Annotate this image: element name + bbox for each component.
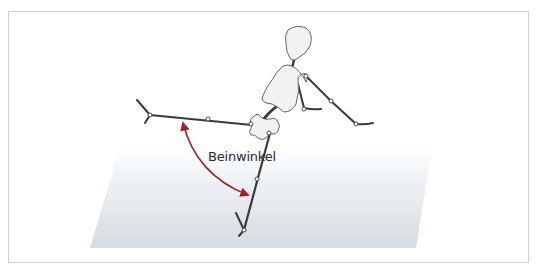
skater-diagram <box>0 0 538 273</box>
right-hand <box>356 123 373 124</box>
right-upper-arm <box>306 76 331 101</box>
joint-right-wrist <box>354 122 358 126</box>
left-hand <box>304 108 321 109</box>
joint-right-elbow <box>329 99 333 103</box>
joint-standing-ankle <box>242 228 246 232</box>
joint-extended-knee <box>206 117 210 121</box>
joint-right-shoulder <box>304 74 308 78</box>
extended-leg <box>150 115 252 125</box>
right-forearm <box>331 101 356 124</box>
joint-left-wrist <box>302 107 306 111</box>
joint-standing-hip <box>267 131 271 135</box>
joint-standing-knee <box>255 177 259 181</box>
torso <box>262 65 308 112</box>
joint-extended-ankle <box>148 113 152 117</box>
joint-extended-hip <box>249 122 253 126</box>
leg-angle-label: Beinwinkel <box>208 149 276 164</box>
head <box>285 26 311 60</box>
extended-foot <box>137 100 150 115</box>
